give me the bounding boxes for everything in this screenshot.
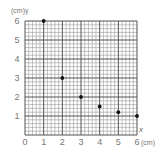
data-point xyxy=(79,95,83,99)
data-point xyxy=(60,76,64,80)
y-tick-label: 5 xyxy=(14,36,19,45)
x-tick-label: 3 xyxy=(78,138,83,147)
x-tick-label: 5 xyxy=(116,138,121,147)
x-tick-label: 6 xyxy=(134,138,139,147)
x-tick-label: 0 xyxy=(22,138,27,147)
data-point xyxy=(98,105,102,109)
y-tick-label: 4 xyxy=(14,55,19,64)
y-tick-label: 2 xyxy=(14,93,19,102)
plot-area xyxy=(0,0,161,153)
x-tick-label: 2 xyxy=(60,138,65,147)
data-points xyxy=(42,19,139,118)
x-tick-label: 1 xyxy=(41,138,46,147)
y-tick-label: 1 xyxy=(14,112,19,121)
data-point xyxy=(135,114,139,118)
data-point xyxy=(42,19,46,23)
data-point xyxy=(116,110,120,114)
y-tick-label: 6 xyxy=(14,17,19,26)
y-tick-label: 3 xyxy=(14,74,19,83)
x-tick-label: 4 xyxy=(97,138,102,147)
grid xyxy=(25,21,137,135)
